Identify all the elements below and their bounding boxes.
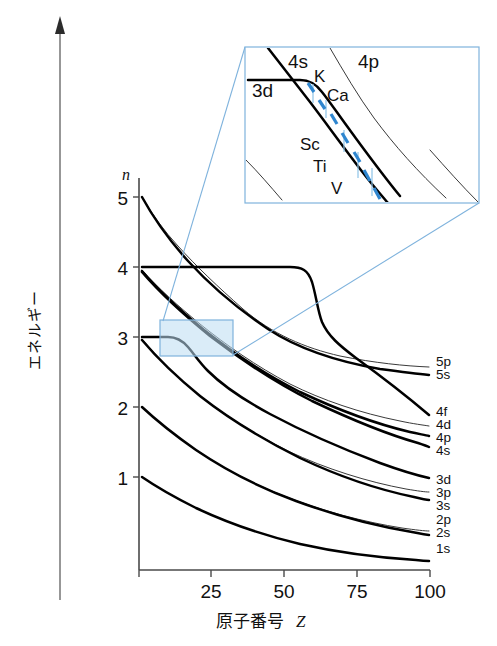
curve-label-5s: 5s [436,367,451,382]
x-tick-100: 100 [414,581,446,602]
inset-element-label-Ti: Ti [313,157,327,176]
x-axis-title: 原子番号 [216,612,284,631]
inset-element-label-K: K [314,67,326,86]
inset-element-label-Sc: Sc [300,135,320,154]
curve-label-1s: 1s [436,541,451,556]
x-tick-75: 75 [346,581,367,602]
inset-curve-label-3d: 3d [252,80,273,101]
y-tick-3: 3 [117,328,128,349]
text-layer: エネルギー n 5 4 3 2 1 25 50 75 100 原子番号 Z 5p… [0,0,497,646]
curve-label-3s: 3s [436,498,451,513]
inset-curve-label-4p: 4p [358,51,379,72]
inset-element-label-V: V [331,179,343,198]
inset-element-label-Ca: Ca [327,86,349,105]
x-tick-25: 25 [200,581,221,602]
curve-label-2s: 2s [436,525,451,540]
n-symbol-label: n [122,166,130,183]
y-tick-2: 2 [117,398,128,419]
x-axis-title-main: 原子番号 [216,612,284,631]
energy-axis-label: エネルギー [26,290,43,370]
x-axis-title-symbol: Z [296,612,306,631]
y-tick-4: 4 [117,258,128,279]
y-tick-1: 1 [117,468,128,489]
y-tick-5: 5 [117,188,128,209]
x-tick-50: 50 [273,581,294,602]
curve-label-4s: 4s [436,443,451,458]
energy-level-figure: エネルギー n 5 4 3 2 1 25 50 75 100 原子番号 Z 5p… [0,0,497,646]
inset-curve-label-4s: 4s [288,51,308,72]
